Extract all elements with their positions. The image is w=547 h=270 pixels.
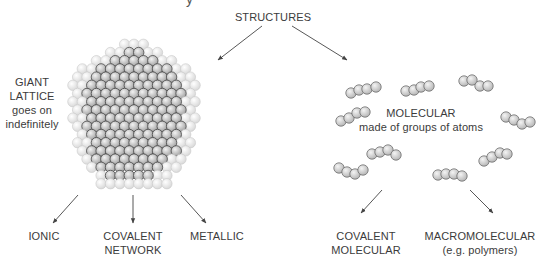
atom	[124, 179, 134, 189]
atom	[96, 179, 106, 189]
atom	[391, 150, 401, 160]
molecule	[334, 163, 368, 179]
arrow	[181, 195, 206, 223]
arrow	[53, 195, 78, 223]
atom	[87, 162, 97, 172]
molecule	[479, 148, 512, 166]
atom	[483, 81, 493, 91]
atom	[362, 84, 372, 94]
covalent-molecular-label: COVALENT MOLECULAR	[331, 229, 400, 257]
molecule	[401, 81, 434, 96]
macromolecular-label: MACROMOLECULAR (e.g. polymers)	[425, 229, 536, 257]
metallic-label: METALLIC	[190, 229, 244, 243]
atom	[358, 165, 368, 175]
atom	[525, 117, 535, 127]
molecule	[501, 112, 535, 129]
atom	[171, 162, 181, 172]
molecular-label: MOLECULAR made of groups of atoms	[359, 106, 483, 134]
atom	[502, 149, 512, 159]
atom	[143, 179, 153, 189]
structures-title: STRUCTURES	[235, 10, 311, 24]
ionic-label: IONIC	[28, 229, 59, 243]
atom	[152, 179, 162, 189]
molecule	[346, 82, 381, 98]
atom	[105, 179, 115, 189]
atom	[162, 179, 172, 189]
arrow	[361, 190, 382, 213]
giant-lattice-label: GIANT LATTICE goes on indefinitely	[5, 75, 58, 131]
giant-lattice-graphic	[68, 39, 201, 189]
arrow	[218, 26, 262, 60]
arrow	[292, 26, 347, 60]
molecule	[459, 75, 493, 91]
atom	[424, 81, 434, 91]
atom	[371, 82, 381, 92]
molecule	[433, 169, 467, 181]
molecule	[367, 145, 401, 160]
arrow	[470, 190, 493, 213]
covalent-network-label: COVALENT NETWORK	[103, 229, 162, 257]
atom	[457, 171, 467, 181]
atom	[134, 179, 144, 189]
atom	[115, 179, 125, 189]
